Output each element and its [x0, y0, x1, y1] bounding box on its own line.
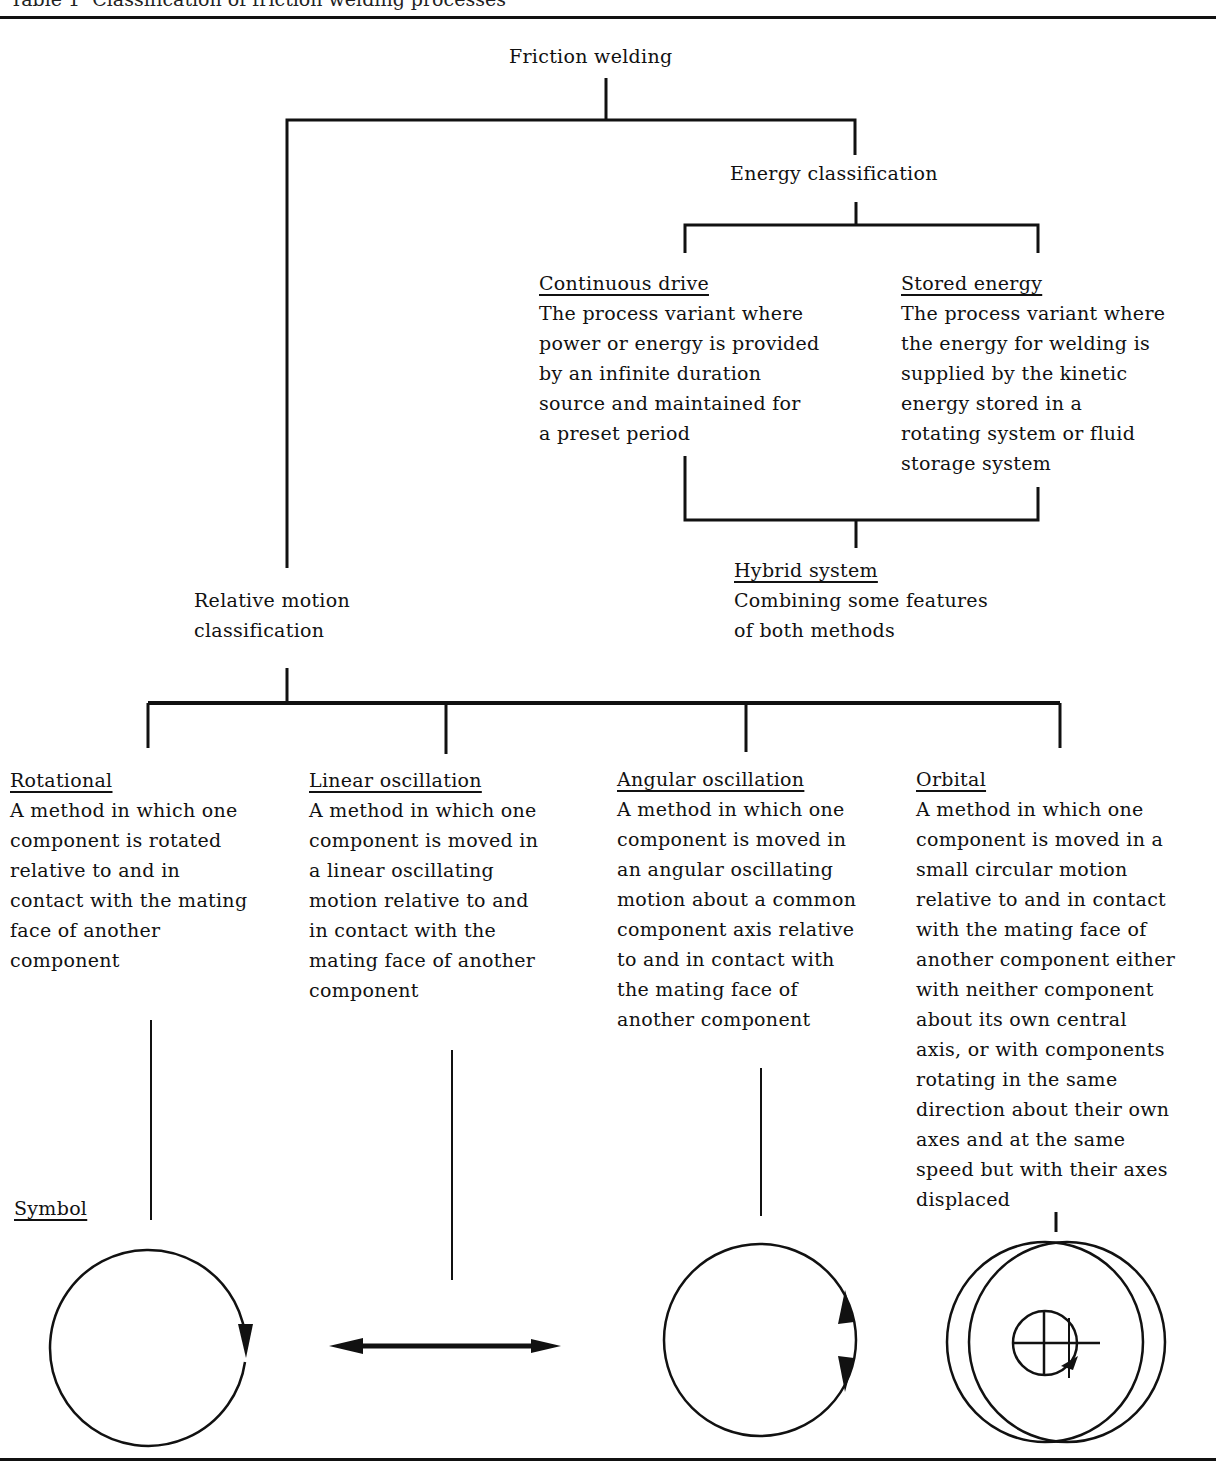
bottom-rule	[0, 1458, 1216, 1461]
angular-oscillation-node: Angular oscillation A method in which on…	[617, 764, 856, 1034]
energy-classification-label: Energy classification	[730, 158, 938, 188]
orbital-line: direction about their own	[916, 1094, 1175, 1124]
orbital-line: speed but with their axes	[916, 1154, 1175, 1184]
orbital-line: with neither component	[916, 974, 1175, 1004]
orbital-line: with the mating face of	[916, 914, 1175, 944]
angular-oscillation-line: component axis relative	[617, 914, 856, 944]
orbital-line: axis, or with components	[916, 1034, 1175, 1064]
rotational-line: relative to and in	[10, 855, 247, 885]
relative-motion-label-line: Relative motion	[194, 585, 350, 615]
orbital-line: about its own central	[916, 1004, 1175, 1034]
relative-motion-label-line: classification	[194, 615, 350, 645]
orbital-line: A method in which one	[916, 794, 1175, 824]
linear-oscillation-line: component	[309, 975, 538, 1005]
linear-oscillation-line: A method in which one	[309, 795, 538, 825]
angular-oscillation-line: another component	[617, 1004, 856, 1034]
angular-oscillation-line: component is moved in	[617, 824, 856, 854]
symbol-label: Symbol	[14, 1193, 87, 1223]
stored-energy-line: storage system	[901, 448, 1165, 478]
orbital-node: Orbital A method in which one component …	[916, 764, 1175, 1214]
hybrid-system-line: of both methods	[734, 615, 988, 645]
stored-energy-line: energy stored in a	[901, 388, 1165, 418]
double-headed-arrow-icon	[325, 1330, 565, 1360]
continuous-drive-heading: Continuous drive	[539, 268, 820, 298]
orbital-line: small circular motion	[916, 854, 1175, 884]
rotational-node: Rotational A method in which one compone…	[10, 765, 247, 975]
linear-oscillation-line: a linear oscillating	[309, 855, 538, 885]
continuous-drive-line: a preset period	[539, 418, 820, 448]
rotational-line: component is rotated	[10, 825, 247, 855]
angular-oscillation-line: the mating face of	[617, 974, 856, 1004]
hybrid-system-line: Combining some features	[734, 585, 988, 615]
angular-oscillation-heading: Angular oscillation	[617, 764, 856, 794]
rotational-line: component	[10, 945, 247, 975]
stored-energy-line: rotating system or fluid	[901, 418, 1165, 448]
angular-oscillation-line: to and in contact with	[617, 944, 856, 974]
relative-motion-classification: Relative motion classification	[194, 585, 350, 645]
stored-energy-line: the energy for welding is	[901, 328, 1165, 358]
orbital-line: displaced	[916, 1184, 1175, 1214]
linear-oscillation-line: motion relative to and	[309, 885, 538, 915]
stored-energy-line: The process variant where	[901, 298, 1165, 328]
angular-oscillation-line: an angular oscillating	[617, 854, 856, 884]
stored-energy-line: supplied by the kinetic	[901, 358, 1165, 388]
linear-oscillation-line: mating face of another	[309, 945, 538, 975]
continuous-drive-line: The process variant where	[539, 298, 820, 328]
orbital-heading: Orbital	[916, 764, 1175, 794]
root-node-label: Friction welding	[509, 41, 672, 71]
stored-energy-node: Stored energy The process variant where …	[901, 268, 1165, 478]
linear-oscillation-line: component is moved in	[309, 825, 538, 855]
stored-energy-heading: Stored energy	[901, 268, 1165, 298]
linear-oscillation-line: in contact with the	[309, 915, 538, 945]
orbital-line: axes and at the same	[916, 1124, 1175, 1154]
hybrid-system-node: Hybrid system Combining some features of…	[734, 555, 988, 645]
orbital-circles-icon	[945, 1230, 1175, 1450]
angular-oscillation-line: A method in which one	[617, 794, 856, 824]
orbital-line: rotating in the same	[916, 1064, 1175, 1094]
orbital-line: relative to and in contact	[916, 884, 1175, 914]
rotational-line: face of another	[10, 915, 247, 945]
linear-oscillation-node: Linear oscillation A method in which one…	[309, 765, 538, 1005]
rotational-heading: Rotational	[10, 765, 247, 795]
continuous-drive-line: source and maintained for	[539, 388, 820, 418]
angular-oscillation-arrow-icon	[655, 1230, 875, 1450]
orbital-line: another component either	[916, 944, 1175, 974]
rotation-arrow-icon	[20, 1238, 260, 1448]
angular-oscillation-line: motion about a common	[617, 884, 856, 914]
hybrid-system-heading: Hybrid system	[734, 555, 988, 585]
continuous-drive-line: by an infinite duration	[539, 358, 820, 388]
linear-oscillation-heading: Linear oscillation	[309, 765, 538, 795]
continuous-drive-node: Continuous drive The process variant whe…	[539, 268, 820, 448]
rotational-line: contact with the mating	[10, 885, 247, 915]
rotational-line: A method in which one	[10, 795, 247, 825]
continuous-drive-line: power or energy is provided	[539, 328, 820, 358]
orbital-line: component is moved in a	[916, 824, 1175, 854]
